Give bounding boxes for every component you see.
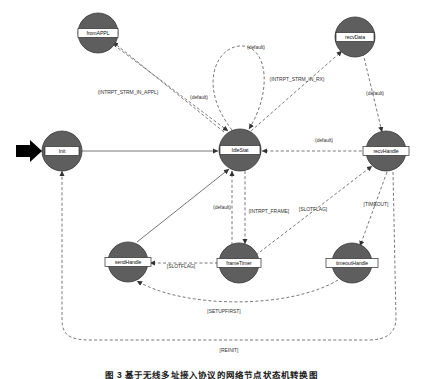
node-recvhandle[interactable]: recvHandle: [363, 131, 409, 171]
state-machine-svg: (default) (default) (INTRPT_STRM_IN_APPL…: [0, 0, 423, 379]
edge-label-frametimer-to-sendhandle: [SLOTFLAG]: [167, 263, 196, 269]
diagram-canvas: (default) (default) (INTRPT_STRM_IN_APPL…: [0, 0, 423, 379]
node-init[interactable]: Init: [42, 131, 82, 171]
node-label-idlestat: IdleStat: [232, 147, 249, 153]
nodes-layer: fromAPPL recvData Init IdleStat recv: [42, 13, 409, 283]
node-label-recvdata: recvData: [345, 34, 365, 40]
edge-recvhandle-to-timeouthandle: [360, 172, 387, 246]
edge-label-timeout-to-sendhandle: [SETUPFIRST]: [207, 308, 241, 314]
edge-label-fromappl-to-idlestat: (default): [190, 94, 208, 100]
edge-label-idlestat-to-recvdata: (INTRPT_STRM_IN_RX): [270, 76, 325, 82]
edge-fromappl-to-idlestat: [114, 45, 228, 131]
edge-label-frametimer-to-recvhandle: [SLOTFLAG]: [299, 206, 328, 212]
node-recvdata[interactable]: recvData: [335, 17, 375, 57]
node-idlestat[interactable]: IdleStat: [219, 129, 261, 171]
edge-idlestat-self: [213, 46, 264, 130]
node-label-init: Init: [59, 148, 66, 154]
edge-idlestat-to-fromappl: [113, 42, 224, 132]
edge-label-idlestat-to-frametimer: [INTRPT_FRAME]: [249, 208, 290, 214]
edge-label-recvhandle-to-timeout: [TIMEOUT]: [364, 201, 389, 207]
edge-labels-layer: (default) (default) (INTRPT_STRM_IN_APPL…: [98, 44, 389, 353]
node-label-sendhandle: sendHandle: [115, 259, 142, 265]
edge-label-recvhandle-to-idlestat: (default): [315, 137, 333, 143]
edge-idlestat-to-recvdata: [251, 51, 342, 131]
node-label-fromappl: fromAPPL: [87, 30, 110, 36]
figure-caption: 图 3 基于无线多址接入协议的网络节点状态机转换图: [0, 370, 423, 379]
edge-label-recvdata-to-recvhandle: (default): [366, 90, 384, 96]
node-frametimer[interactable]: frameTimer: [217, 243, 261, 283]
edges-layer: [16, 42, 396, 340]
node-timeouthandle[interactable]: timeoutHandle: [326, 243, 378, 283]
edge-label-idlestat-to-fromappl: (INTRPT_STRM_IN_APPL): [98, 89, 159, 95]
node-label-frametimer: frameTimer: [226, 260, 252, 266]
node-fromappl[interactable]: fromAPPL: [78, 13, 118, 53]
edge-label-idlestat-self: (default): [247, 44, 265, 50]
start-marker-arrow: [16, 140, 42, 162]
node-label-timeouthandle: timeoutHandle: [336, 260, 368, 266]
edge-label-frametimer-to-idlestat: (default): [213, 204, 231, 210]
edge-label-recvhandle-to-init: [REINIT]: [220, 347, 239, 353]
node-label-recvhandle: recvHandle: [373, 148, 398, 154]
node-sendhandle[interactable]: sendHandle: [105, 242, 151, 282]
